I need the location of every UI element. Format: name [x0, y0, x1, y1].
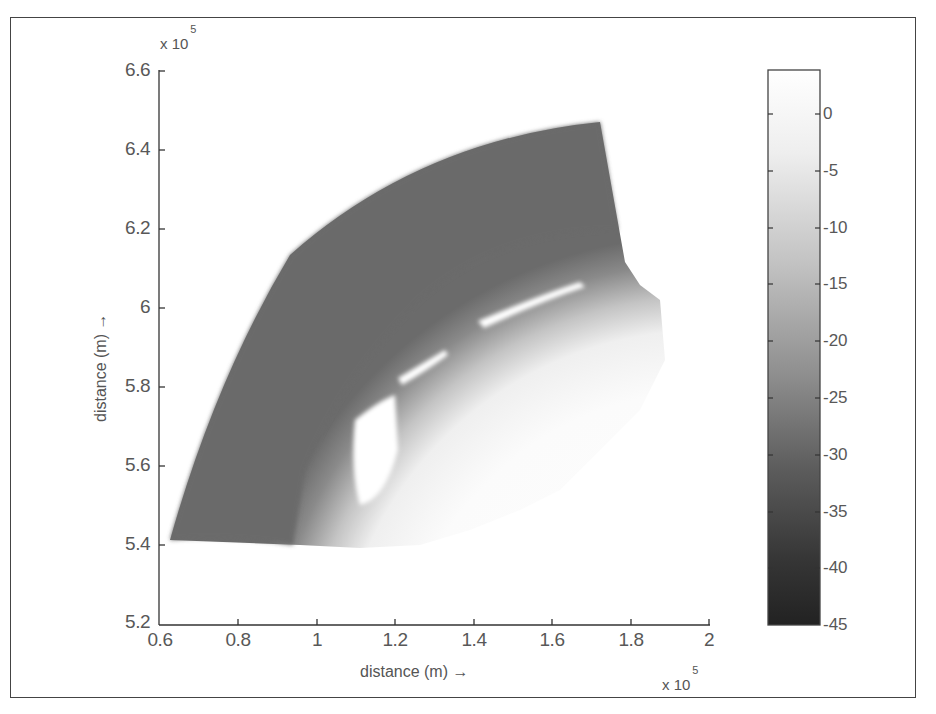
y-tick-label: 5.4	[100, 533, 150, 555]
x-tick-label: 1	[292, 629, 342, 651]
x-tick-label: 1.6	[527, 629, 577, 651]
x-tick-label: 1.2	[370, 629, 420, 651]
plot-canvas	[0, 0, 936, 714]
colorbar-tick-label: -5	[823, 161, 838, 181]
data-region	[170, 122, 665, 548]
colorbar-tick-label: -25	[823, 388, 848, 408]
colorbar-tick-label: -45	[823, 615, 848, 635]
colorbar-tick-label: -35	[823, 502, 848, 522]
x-exponent-label: x 105	[662, 674, 696, 693]
x-tick-label: 0.6	[135, 629, 185, 651]
x-tick-label: 1.8	[606, 629, 656, 651]
x-tick-label: 2	[684, 629, 734, 651]
colorbar-tick-label: -40	[823, 558, 848, 578]
y-tick-label: 6.6	[100, 59, 150, 81]
x-tick-label: 1.4	[449, 629, 499, 651]
y-axis-title: distance (m) →	[92, 314, 110, 422]
y-tick-label: 5.6	[100, 454, 150, 476]
colorbar-tick-label: -20	[823, 331, 848, 351]
y-exponent-label: x 105	[160, 33, 194, 52]
colorbar-tick-label: 0	[823, 104, 832, 124]
y-tick-label: 6.4	[100, 138, 150, 160]
colorbar-tick-label: -10	[823, 218, 848, 238]
y-tick-label: 6.2	[100, 217, 150, 239]
colorbar	[768, 70, 820, 625]
colorbar-tick-label: -30	[823, 445, 848, 465]
colorbar-gradient	[768, 70, 820, 625]
x-axis-title: distance (m) →	[360, 663, 468, 681]
colorbar-tick-label: -15	[823, 274, 848, 294]
x-tick-label: 0.8	[213, 629, 263, 651]
